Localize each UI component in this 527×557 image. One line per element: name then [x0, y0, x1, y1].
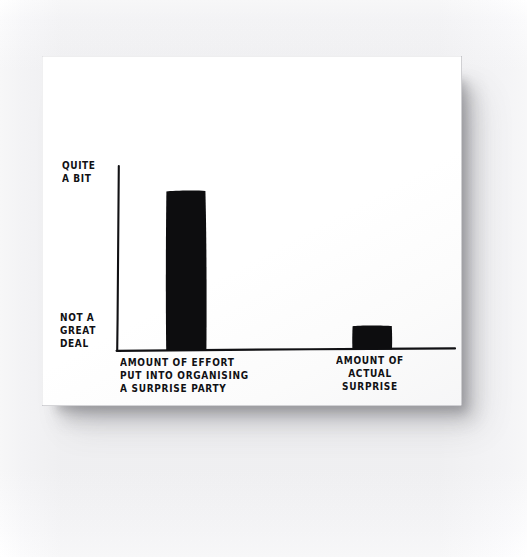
category-label-effort-line1: AMOUNT OF EFFORT	[120, 357, 235, 368]
y-axis-line	[117, 166, 119, 351]
category-label-surprise: AMOUNT OF ACTUAL SURPRISE	[322, 355, 418, 394]
paper-card: QUITE A BIT NOT A GREAT DEAL AMOUNT OF E…	[42, 56, 462, 406]
category-label-effort-line2: PUT INTO ORGANISING	[120, 370, 249, 381]
y-axis-bottom-label: NOT A GREAT DEAL	[60, 312, 96, 351]
y-axis-top-label: QUITE A BIT	[62, 160, 96, 186]
y-axis-bottom-label-line2: GREAT	[60, 325, 96, 336]
y-axis-top-label-line2: A BIT	[62, 173, 91, 184]
photo-canvas: QUITE A BIT NOT A GREAT DEAL AMOUNT OF E…	[0, 0, 527, 557]
category-label-surprise-line1: AMOUNT OF	[336, 355, 404, 366]
y-axis-bottom-label-line3: DEAL	[60, 338, 89, 349]
category-label-surprise-line3: SURPRISE	[342, 381, 398, 392]
category-label-effort-line3: A SURPRISE PARTY	[120, 383, 227, 394]
bar-chart: QUITE A BIT NOT A GREAT DEAL AMOUNT OF E…	[42, 56, 462, 406]
bar-surprise	[352, 325, 392, 349]
y-axis-bottom-label-line1: NOT A	[60, 312, 94, 323]
bar-effort	[166, 191, 207, 351]
category-label-surprise-line2: ACTUAL	[348, 368, 392, 379]
y-axis-top-label-line1: QUITE	[62, 160, 96, 171]
category-label-effort: AMOUNT OF EFFORT PUT INTO ORGANISING A S…	[120, 357, 249, 396]
